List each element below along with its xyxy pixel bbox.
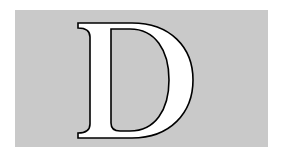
dropcap-letter-d: D	[0, 0, 282, 155]
letter-d-shape	[78, 23, 193, 138]
